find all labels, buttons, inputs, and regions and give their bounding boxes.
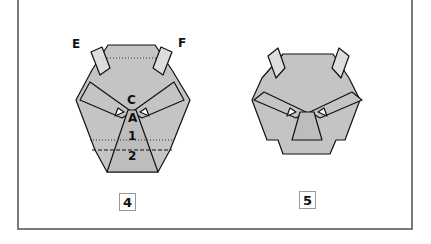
step-number-5: 5 bbox=[299, 191, 316, 209]
step-5-diagram bbox=[0, 0, 431, 244]
step-number-4: 4 bbox=[119, 193, 136, 211]
